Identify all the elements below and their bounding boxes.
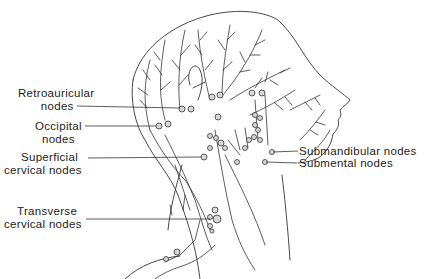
transverse-cervical-node [212, 207, 218, 213]
occipital-node [156, 123, 162, 129]
shoulder-line [125, 256, 180, 279]
retroauricular-node [179, 106, 185, 112]
superficial-cervical-node [201, 154, 207, 160]
neck-front [282, 175, 290, 260]
retroauricular-label-line1: Retroauricular [18, 87, 94, 100]
parotid-node [215, 114, 221, 120]
head-outline [133, 11, 350, 163]
retroauricular-label: Retroauricular nodes [18, 87, 94, 113]
retroauricular-node [188, 106, 194, 112]
occipital-label: Occipital nodes [35, 120, 82, 146]
occipital-label-line2: nodes [35, 133, 82, 146]
ear-outline [189, 66, 203, 100]
superficial-cervical-label: Superficial cervical nodes [4, 151, 82, 177]
superficial-cervical-label-line1: Superficial [4, 151, 82, 164]
preauricular-node [209, 94, 215, 100]
submental-label: Submental nodes [299, 157, 393, 170]
retroauricular-label-line2: nodes [20, 100, 94, 113]
preauricular-node [217, 92, 223, 98]
lymph-nodes [156, 90, 275, 262]
occipital-node [165, 121, 171, 127]
transverse-cervical-label-line2: cervical nodes [4, 218, 82, 231]
occipital-label-line1: Occipital [35, 120, 82, 133]
superficial-cervical-label-line2: cervical nodes [4, 164, 82, 177]
transverse-cervical-label: Transverse cervical nodes [4, 205, 82, 231]
transverse-cervical-label-line1: Transverse [4, 205, 82, 218]
lymph-node-diagram: Retroauricular nodes Occipital nodes Sup… [0, 0, 428, 279]
